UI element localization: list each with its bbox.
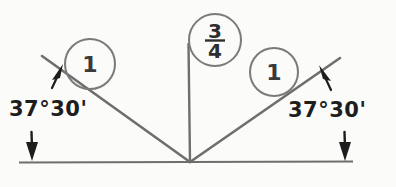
- left-lower-arrow-icon: [26, 142, 38, 161]
- right-lower-arrow-icon: [339, 142, 351, 161]
- angle-label-right: 37°30': [288, 100, 366, 121]
- left-balloon-value: 1: [82, 52, 97, 77]
- welding-angle-diagram: 1 1 3 4 37°30' 37°30': [0, 0, 396, 187]
- center-vertical-line: [189, 44, 191, 162]
- diagram-canvas: 1 1 3 4: [0, 0, 396, 187]
- right-balloon-value: 1: [266, 60, 281, 85]
- center-balloon-denominator: 4: [208, 39, 222, 63]
- angle-label-left: 37°30': [9, 99, 87, 120]
- baseline: [20, 162, 352, 163]
